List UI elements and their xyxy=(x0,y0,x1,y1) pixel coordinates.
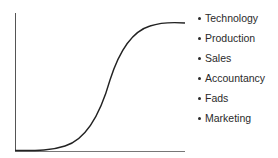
bullet-icon xyxy=(198,37,201,40)
s-curve-line xyxy=(15,22,185,150)
bullet-icon xyxy=(198,117,201,120)
bullet-icon xyxy=(198,97,201,100)
bullet-icon xyxy=(198,57,201,60)
legend-item-accountancy: Accountancy xyxy=(198,68,265,88)
legend-item-fads: Fads xyxy=(198,88,265,108)
bullet-icon xyxy=(198,17,201,20)
legend-item-technology: Technology xyxy=(198,8,265,28)
bullet-icon xyxy=(198,77,201,80)
legend: Technology Production Sales Accountancy … xyxy=(198,8,265,128)
legend-item-marketing: Marketing xyxy=(198,108,265,128)
legend-item-sales: Sales xyxy=(198,48,265,68)
legend-item-production: Production xyxy=(198,28,265,48)
